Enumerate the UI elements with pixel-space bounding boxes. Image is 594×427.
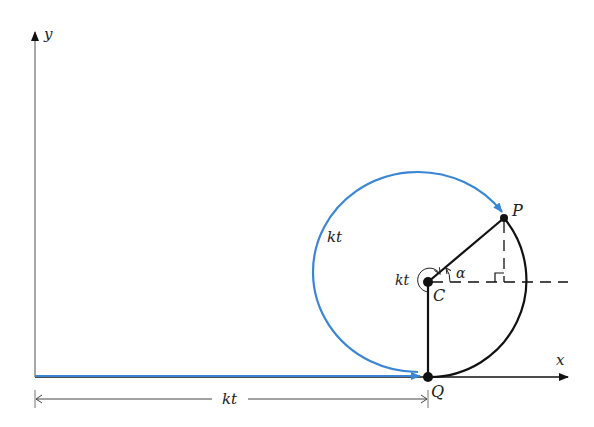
label-Q: Q — [431, 382, 444, 401]
alpha-label: α — [456, 265, 466, 281]
y-axis: y — [35, 25, 53, 377]
x-axis: x — [35, 351, 568, 377]
label-C: C — [433, 286, 445, 305]
y-axis-label: y — [43, 25, 53, 43]
arc-kt-label: kt — [327, 228, 343, 246]
point-P — [500, 214, 508, 222]
point-C — [423, 277, 433, 287]
alpha-angle-arc — [446, 268, 450, 282]
dimension-line: kt — [35, 390, 428, 408]
kt-angle-label: kt — [395, 272, 409, 288]
label-P: P — [511, 201, 523, 220]
x-axis-label: x — [556, 351, 565, 369]
distance-kt-label: kt — [222, 390, 238, 408]
diagram-canvas: y x α kt P C Q kt kt — [0, 0, 594, 427]
point-Q — [423, 372, 433, 382]
right-angle-mark — [495, 273, 504, 282]
